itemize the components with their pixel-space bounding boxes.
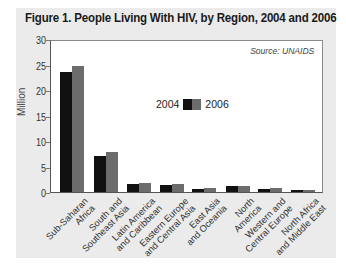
bar-2004 bbox=[127, 184, 139, 192]
bar-2004 bbox=[258, 189, 270, 192]
legend-label-2004: 2004 bbox=[156, 98, 179, 110]
bar-2006 bbox=[172, 184, 184, 192]
y-tick-label: 10 bbox=[5, 137, 46, 148]
bar-2006 bbox=[139, 183, 151, 192]
legend-label-2006: 2006 bbox=[205, 98, 228, 110]
bar-2006 bbox=[238, 186, 250, 192]
bar-2006 bbox=[270, 188, 282, 192]
bar-2004 bbox=[291, 190, 303, 192]
y-tick-label: 25 bbox=[5, 60, 46, 71]
plot-area: Source: UNAIDS bbox=[50, 40, 323, 193]
bar-2004 bbox=[94, 156, 106, 192]
y-tick-mark bbox=[46, 193, 50, 194]
bar-2004 bbox=[60, 72, 72, 192]
y-tick-label: 30 bbox=[5, 35, 46, 46]
source-note: Source: UNAIDS bbox=[250, 45, 314, 56]
y-tick-label: 0 bbox=[5, 188, 46, 199]
bar-2006 bbox=[106, 152, 118, 192]
y-axis-label: Million bbox=[16, 88, 27, 116]
y-tick-label: 5 bbox=[5, 162, 46, 173]
legend: 2004 2006 bbox=[156, 98, 229, 110]
bar-2006 bbox=[72, 66, 84, 192]
legend-swatch-2006 bbox=[192, 99, 201, 110]
bar-2004 bbox=[160, 185, 172, 192]
bar-2004 bbox=[226, 186, 238, 192]
bar-2006 bbox=[303, 190, 315, 192]
bar-2004 bbox=[192, 189, 204, 192]
bar-2006 bbox=[204, 188, 216, 192]
legend-swatch-2004 bbox=[183, 99, 192, 110]
chart-title: Figure 1. People Living With HIV, by Reg… bbox=[25, 11, 336, 25]
